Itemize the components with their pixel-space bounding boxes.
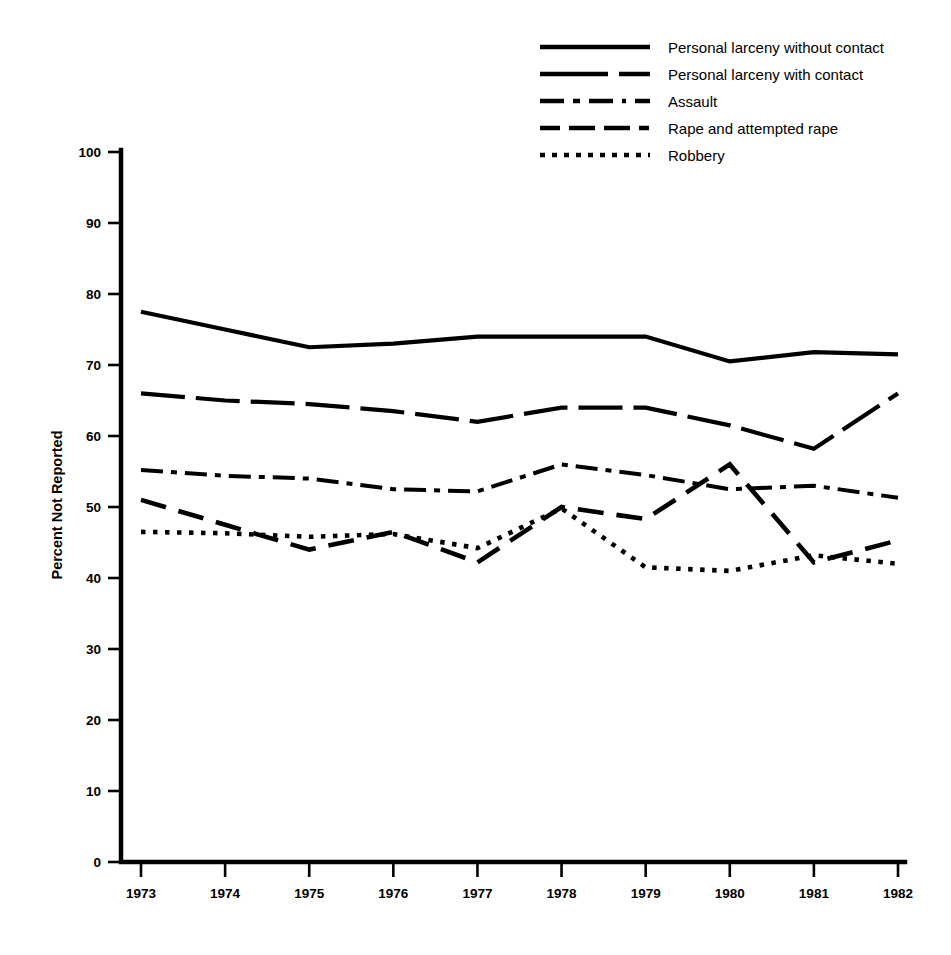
x-tick-label: 1976	[378, 886, 409, 901]
legend-label-3: Rape and attempted rape	[668, 120, 838, 137]
x-tick-label: 1980	[715, 886, 745, 901]
y-tick-label: 30	[86, 642, 101, 657]
x-tick-label: 1979	[631, 886, 661, 901]
legend-label-0: Personal larceny without contact	[668, 39, 885, 56]
x-tick-label: 1974	[210, 886, 241, 901]
y-tick-label: 0	[93, 855, 101, 870]
legend-label-4: Robbery	[668, 147, 725, 164]
x-tick-label: 1975	[294, 886, 325, 901]
legend-label-2: Assault	[668, 93, 718, 110]
y-tick-label: 70	[86, 358, 101, 373]
y-tick-label: 80	[86, 287, 101, 302]
y-tick-label: 60	[86, 429, 101, 444]
y-tick-label: 50	[86, 500, 101, 515]
x-tick-label: 1973	[126, 886, 157, 901]
y-axis-title: Percent Not Reported	[49, 430, 65, 579]
line-chart-canvas: Personal larceny without contactPersonal…	[0, 0, 951, 955]
legend-label-1: Personal larceny with contact	[668, 66, 864, 83]
chart-figure: Personal larceny without contactPersonal…	[0, 0, 951, 955]
y-tick-label: 20	[86, 713, 101, 728]
x-tick-label: 1982	[883, 886, 913, 901]
y-tick-label: 90	[86, 216, 101, 231]
x-tick-label: 1981	[799, 886, 830, 901]
chart-background	[0, 0, 951, 955]
y-tick-label: 40	[86, 571, 101, 586]
y-tick-label: 10	[86, 784, 101, 799]
x-tick-label: 1978	[547, 886, 578, 901]
y-tick-label: 100	[78, 145, 101, 160]
x-tick-label: 1977	[462, 886, 492, 901]
